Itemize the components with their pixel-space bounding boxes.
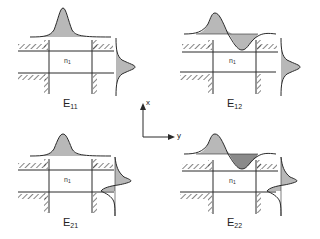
mode-label-e12: E12 (227, 97, 242, 110)
panel-e11 (18, 8, 135, 96)
mode-diagram (0, 0, 320, 239)
core-label-e11: n1 (64, 57, 71, 65)
axis-label-y: y (177, 131, 181, 140)
axis-label-x: x (146, 98, 150, 107)
core-label-e12: n1 (229, 57, 236, 65)
mode-label-e11: E11 (63, 97, 78, 110)
y-profile-curve (30, 8, 96, 37)
mode-label-e22: E22 (227, 216, 242, 229)
panel-e21 (18, 134, 131, 216)
mode-label-e21: E21 (63, 216, 78, 229)
panel-e12 (180, 13, 300, 96)
coordinate-axes (140, 103, 175, 140)
panel-e22 (180, 134, 297, 216)
core-label-e22: n1 (229, 177, 236, 185)
core-label-e21: n1 (64, 176, 71, 184)
